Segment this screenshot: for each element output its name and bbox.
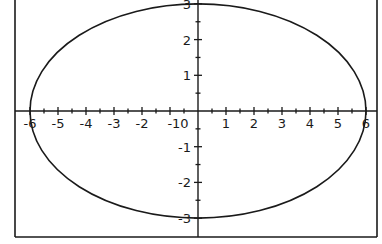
plot-frame: [15, 0, 377, 237]
tick-label: -3: [178, 211, 191, 226]
tick-label: -10: [167, 116, 188, 131]
tick-label: 3: [278, 116, 286, 131]
tick-label: -2: [136, 116, 149, 131]
tick-label: -6: [24, 116, 37, 131]
tick-label: -1: [178, 140, 191, 155]
tick-label: 4: [306, 116, 314, 131]
tick-label: -5: [52, 116, 65, 131]
tick-label: -3: [108, 116, 121, 131]
tick-label: -4: [80, 116, 93, 131]
tick-label: 2: [250, 116, 258, 131]
tick-label: 1: [222, 116, 230, 131]
tick-label: 6: [362, 116, 370, 131]
ellipse-plot: -6-5-4-3-2-10123456 321-1-2-3: [0, 0, 382, 244]
tick-label: 1: [183, 68, 191, 83]
tick-label: 3: [183, 0, 191, 12]
tick-label: 2: [183, 33, 191, 48]
tick-label: 5: [334, 116, 342, 131]
tick-label: -2: [178, 175, 191, 190]
axes: [15, 0, 377, 237]
